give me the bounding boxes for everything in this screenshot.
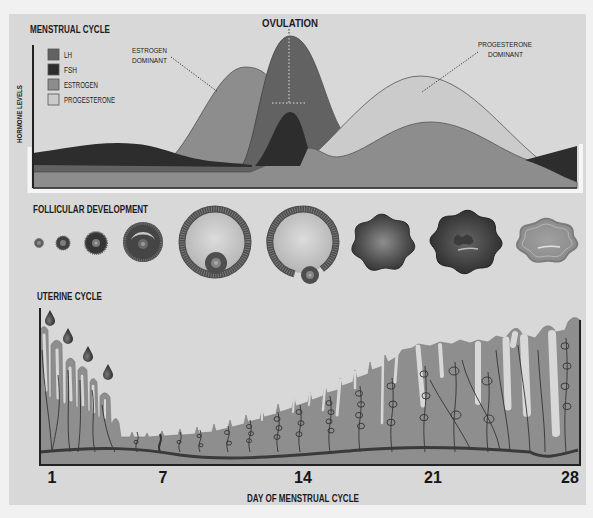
legend-label-estrogen: ESTROGEN <box>64 80 98 90</box>
x-tick-day-14: 14 <box>294 469 312 486</box>
progesterone-dominant-label-line2: DOMINANT <box>488 50 523 59</box>
early-antral-follicle-icon <box>123 222 163 262</box>
legend-swatch-progesterone <box>48 94 59 105</box>
gland-opening <box>309 393 310 405</box>
estrogen-dominant-label-line2: DOMINANT <box>132 56 167 65</box>
legend-swatch-fsh <box>48 64 59 75</box>
primary-follicle-icon <box>56 236 70 250</box>
gland-opening <box>293 399 294 412</box>
menstrual-cycle-infographic: MENSTRUAL CYCLE HORMONE LEVELS OVULATION… <box>0 0 593 518</box>
legend-item-estrogen: ESTROGEN <box>48 79 98 90</box>
gland-opening <box>440 345 442 376</box>
corpus-luteum-mature-icon <box>430 210 502 273</box>
antral-follicle-icon <box>182 209 248 275</box>
gland-opening <box>82 376 83 405</box>
secondary-follicle-icon <box>85 232 107 254</box>
x-tick-day-1: 1 <box>48 469 57 486</box>
section-title-uterine-cycle: UTERINE CYCLE <box>37 290 102 302</box>
x-tick-day-21: 21 <box>424 469 442 486</box>
x-axis-label: DAY OF MENSTRUAL CYCLE <box>247 492 359 504</box>
legend-swatch-lh <box>48 49 59 60</box>
gland-opening <box>70 368 71 400</box>
x-tick-day-7: 7 <box>159 469 168 486</box>
legend-item-progesterone: PROGESTERONE <box>48 94 115 105</box>
x-tick-day-28: 28 <box>561 469 579 486</box>
gland-opening <box>506 340 508 407</box>
ovulation-label: OVULATION <box>262 17 318 29</box>
legend-label-progesterone: PROGESTERONE <box>64 95 115 105</box>
primordial-follicle-icon <box>35 239 44 248</box>
legend-swatch-estrogen <box>48 79 59 90</box>
legend-label-fsh: FSH <box>64 65 77 75</box>
section-title-menstrual-cycle: MENSTRUAL CYCLE <box>30 23 110 35</box>
estrogen-dominant-label-line1: ESTROGEN <box>132 46 167 55</box>
gland-opening <box>57 350 58 398</box>
gland-opening <box>552 334 556 433</box>
gland-opening <box>513 334 515 345</box>
section-title-follicular-development: FOLLICULAR DEVELOPMENT <box>33 203 148 215</box>
progesterone-dominant-label-line1: PROGESTERONE <box>478 40 532 49</box>
y-axis-label: HORMONE LEVELS <box>15 84 24 143</box>
gland-opening <box>382 357 383 423</box>
gland-opening <box>395 353 397 382</box>
legend-label-lh: LH <box>64 50 72 60</box>
